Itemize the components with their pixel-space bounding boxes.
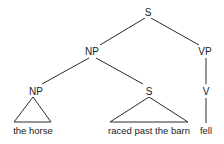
edge-group bbox=[42, 18, 206, 123]
leaf-the-horse: the horse bbox=[13, 126, 53, 136]
tree-edges bbox=[0, 0, 224, 144]
leaf-fell: fell bbox=[200, 126, 212, 136]
tree-edge bbox=[42, 58, 89, 84]
tree-edge bbox=[151, 18, 199, 45]
triangle-group bbox=[14, 97, 188, 122]
tree-edge bbox=[96, 58, 143, 84]
tree-edge bbox=[100, 18, 145, 45]
node-np-det: NP bbox=[28, 87, 44, 97]
constituent-triangle bbox=[110, 97, 188, 122]
constituent-triangle bbox=[14, 97, 51, 122]
node-s-relative: S bbox=[145, 87, 154, 97]
node-np-subject: NP bbox=[84, 47, 100, 57]
node-s-root: S bbox=[144, 8, 153, 18]
leaf-raced-past-the-barn: raced past the barn bbox=[108, 126, 190, 136]
node-vp: VP bbox=[197, 47, 212, 57]
node-v: V bbox=[202, 87, 211, 97]
